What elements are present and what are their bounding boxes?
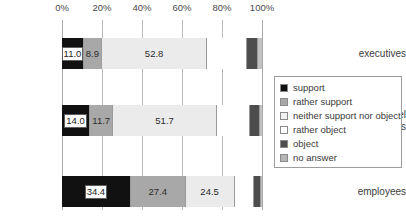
- category-label: executives: [348, 48, 406, 60]
- bar-segment-no-answer: [261, 176, 262, 207]
- bar-segment-rather-support: 8.9: [84, 38, 102, 69]
- bar-segment-object: [247, 38, 258, 69]
- legend-item[interactable]: neither support nor object: [280, 109, 401, 123]
- legend-swatch-icon: [280, 126, 288, 134]
- x-tick-label: 20%: [92, 2, 111, 13]
- x-tick-label: 40%: [132, 2, 151, 13]
- bar-segment-neither-support-nor-object: 51.7: [113, 105, 216, 136]
- bar-2: 14.011.751.7: [62, 105, 262, 136]
- x-tick-label: 100%: [250, 2, 274, 13]
- bar-segment-rather-support: 27.4: [131, 176, 186, 207]
- bar-1: 11.08.952.8: [62, 38, 262, 69]
- segment-value-label: 52.8: [145, 49, 164, 59]
- category-label: employees: [348, 186, 406, 198]
- legend-item[interactable]: rather support: [280, 95, 401, 109]
- legend-label: rather object: [293, 125, 346, 135]
- bar-segment-object: [254, 176, 261, 207]
- bar-segment-rather-object: [217, 105, 250, 136]
- legend-swatch-icon: [280, 154, 288, 162]
- bar-segment-support: 11.0: [62, 38, 84, 69]
- bar-segment-neither-support-nor-object: 24.5: [186, 176, 235, 207]
- legend-swatch-icon: [280, 98, 288, 106]
- x-tick-label: 60%: [172, 2, 191, 13]
- legend-label: rather support: [293, 97, 352, 107]
- legend-item[interactable]: rather object: [280, 123, 401, 137]
- bar-segment-no-answer: [258, 38, 262, 69]
- segment-value-label: 27.4: [148, 187, 167, 197]
- segment-value-label: 24.5: [200, 187, 219, 197]
- bar-segment-object: [250, 105, 260, 136]
- legend: supportrather supportneither support nor…: [274, 76, 402, 168]
- gridline-100: [262, 20, 263, 210]
- segment-value-label: 14.0: [64, 114, 87, 128]
- segment-value-label: 11.7: [92, 116, 110, 126]
- bar-segment-support: 14.0: [62, 105, 90, 136]
- legend-label: no answer: [293, 153, 337, 163]
- legend-item[interactable]: no answer: [280, 151, 401, 165]
- segment-value-label: 8.9: [86, 49, 99, 59]
- bar-segment-rather-object: [235, 176, 254, 207]
- bar-segment-rather-support: 11.7: [90, 105, 113, 136]
- legend-swatch-icon: [280, 140, 288, 148]
- legend-label: object: [293, 139, 318, 149]
- bar-segment-no-answer: [260, 105, 262, 136]
- plot-area: 11.08.952.814.011.751.734.427.424.5: [62, 20, 262, 210]
- bar-3: 34.427.424.5: [62, 176, 262, 207]
- legend-item[interactable]: object: [280, 137, 401, 151]
- legend-label: neither support nor object: [293, 111, 401, 121]
- segment-value-label: 51.7: [155, 116, 174, 126]
- bar-segment-neither-support-nor-object: 52.8: [102, 38, 208, 69]
- segment-value-label: 34.4: [85, 185, 108, 199]
- stacked-bar-chart: 11.08.952.814.011.751.734.427.424.5 0%20…: [0, 0, 406, 224]
- legend-item[interactable]: support: [280, 81, 401, 95]
- bar-segment-support: 34.4: [62, 176, 131, 207]
- legend-label: support: [293, 83, 325, 93]
- legend-swatch-icon: [280, 112, 288, 120]
- bar-segment-rather-object: [207, 38, 247, 69]
- legend-swatch-icon: [280, 84, 288, 92]
- x-tick-label: 0%: [55, 2, 69, 13]
- x-tick-label: 80%: [212, 2, 231, 13]
- segment-value-label: 11.0: [62, 47, 84, 61]
